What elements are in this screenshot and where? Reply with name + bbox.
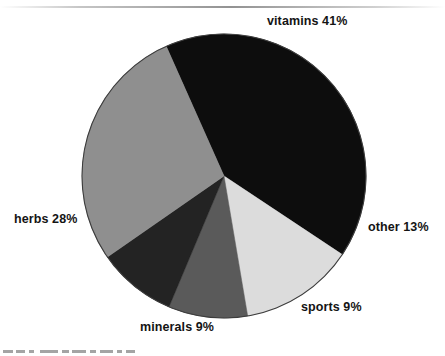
pie-chart-svg (0, 0, 445, 356)
pie-label-minerals: minerals 9% (140, 320, 214, 334)
caption-glyph-fragment (40, 350, 58, 353)
caption-glyph-fragment (117, 350, 122, 353)
pie-chart-figure: vitamins 41% other 13% sports 9% mineral… (0, 0, 445, 356)
caption-glyph-fragment (3, 350, 13, 353)
caption-glyph-fragment (29, 350, 34, 353)
pie-label-other: other 13% (368, 220, 429, 234)
pie-label-herbs: herbs 28% (14, 212, 77, 226)
caption-glyph-fragment (62, 350, 69, 353)
pie-label-vitamins: vitamins 41% (267, 14, 347, 28)
pie-label-sports: sports 9% (301, 300, 362, 314)
caption-glyph-fragment (72, 350, 86, 353)
cutoff-caption-strip (0, 349, 445, 356)
caption-glyph-fragment (100, 350, 113, 353)
pie-chart-page: vitamins 41% other 13% sports 9% mineral… (0, 0, 445, 356)
caption-glyph-fragment (16, 350, 25, 353)
caption-glyph-fragment (90, 350, 96, 353)
caption-glyph-fragment (126, 350, 135, 353)
pie-slice-group (82, 34, 366, 318)
